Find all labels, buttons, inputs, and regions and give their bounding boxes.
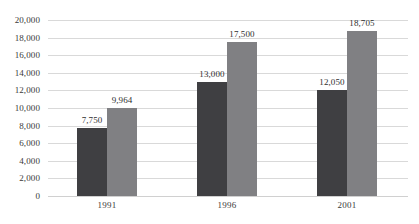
bar-value-label: 18,705 bbox=[349, 19, 374, 28]
y-tick-label: 10,000 bbox=[0, 104, 40, 113]
y-tick-label: 2,000 bbox=[0, 174, 40, 183]
bar-chart: 20,00018,00016,00014,00012,00010,0008,00… bbox=[0, 0, 419, 224]
y-tick-label: 8,000 bbox=[0, 122, 40, 131]
bar[interactable] bbox=[317, 90, 347, 196]
y-tick-label: 20,000 bbox=[0, 16, 40, 25]
bar[interactable] bbox=[77, 128, 107, 196]
category-label: 1991 bbox=[67, 201, 147, 210]
bar[interactable] bbox=[197, 82, 227, 196]
category-label: 1996 bbox=[187, 201, 267, 210]
y-tick-label: 4,000 bbox=[0, 157, 40, 166]
y-tick-label: 0 bbox=[0, 192, 40, 201]
bar[interactable] bbox=[347, 31, 377, 196]
bar[interactable] bbox=[227, 42, 257, 196]
y-tick-label: 16,000 bbox=[0, 51, 40, 60]
y-tick-label: 14,000 bbox=[0, 69, 40, 78]
y-tick-label: 6,000 bbox=[0, 139, 40, 148]
category-label: 2001 bbox=[307, 201, 387, 210]
bar-value-label: 7,750 bbox=[82, 116, 103, 125]
bar-value-label: 12,050 bbox=[319, 78, 344, 87]
bar-group: 7,7509,964 bbox=[77, 20, 137, 196]
bar[interactable] bbox=[107, 108, 137, 196]
bar-value-label: 17,500 bbox=[229, 30, 254, 39]
plot-area: 7,7509,96413,00017,50012,05018,705 bbox=[48, 20, 408, 196]
y-tick-label: 18,000 bbox=[0, 34, 40, 43]
bar-value-label: 9,964 bbox=[112, 96, 133, 105]
gridline bbox=[48, 196, 408, 197]
y-tick-label: 12,000 bbox=[0, 86, 40, 95]
bar-value-label: 13,000 bbox=[199, 70, 224, 79]
bar-group: 13,00017,500 bbox=[197, 20, 257, 196]
bar-group: 12,05018,705 bbox=[317, 20, 377, 196]
